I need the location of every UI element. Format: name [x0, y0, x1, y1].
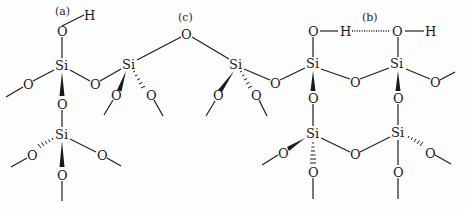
atom-o: O: [57, 97, 68, 112]
atom-o: O: [57, 168, 68, 183]
bonds: [6, 15, 455, 201]
bond-o-terminal: [435, 155, 451, 164]
bond-si1-o-left: [33, 70, 54, 81]
atom-h: H: [425, 24, 436, 39]
structure-canvas: (a) H O Si O O O Si O O O Si O O (c) O S…: [0, 0, 466, 209]
bond-si2-o-right: [70, 139, 96, 152]
atom-o: O: [97, 148, 108, 163]
bond-o-terminal: [107, 158, 121, 166]
wedge-si5-o-below: [311, 71, 316, 91]
atom-si: Si: [390, 56, 403, 71]
atom-o: O: [308, 24, 319, 39]
wedge-si7-o-left: [287, 138, 305, 151]
bond-o-si6: [360, 68, 389, 79]
atom-o: O: [278, 146, 289, 161]
hash-si4-o: [240, 71, 252, 88]
bond-si3-o-c: [137, 37, 181, 60]
atoms: (a) H O Si O O O Si O O O Si O O (c) O S…: [23, 5, 441, 183]
hash-si7-o-below: [310, 143, 316, 163]
atom-o: O: [27, 148, 38, 163]
atom-si: Si: [306, 56, 319, 71]
atom-o: O: [308, 91, 319, 106]
bond-si1-o-bridge: [70, 70, 90, 81]
atom-o: O: [57, 24, 68, 39]
bond-o-terminal: [440, 72, 455, 80]
wedge-si1-o-below: [60, 72, 65, 96]
atom-si: Si: [391, 125, 404, 140]
label-b: (b): [362, 11, 378, 24]
bond-si6-o-right: [406, 69, 430, 79]
atom-o: O: [425, 146, 436, 161]
bond-o-terminal: [262, 155, 278, 165]
atom-o: O: [350, 147, 361, 162]
bond-o-si5: [280, 68, 305, 80]
atom-o-siloxane: O: [181, 27, 192, 42]
atom-si: Si: [55, 58, 68, 73]
atom-o: O: [146, 88, 157, 103]
atom-o: O: [308, 165, 319, 180]
label-a: (a): [55, 5, 70, 18]
atom-si: Si: [306, 126, 319, 141]
bond-si5-o-bridge: [321, 69, 350, 79]
atom-o: O: [350, 75, 361, 90]
bond-o-terminal: [6, 87, 23, 97]
atom-o: O: [90, 77, 101, 92]
hash-si2-o-left: [38, 138, 53, 148]
bond-o-si8: [360, 137, 390, 152]
silica-structure-diagram: (a) H O Si O O O Si O O O Si O O (c) O S…: [0, 0, 466, 209]
atom-o: O: [23, 77, 34, 92]
atom-h: H: [84, 8, 95, 23]
bond-o-c-si4: [192, 37, 229, 59]
bond-o-terminal: [206, 101, 215, 116]
atom-o: O: [213, 88, 224, 103]
atom-o: O: [393, 165, 404, 180]
faint-caption: [150, 196, 320, 206]
atom-o: O: [111, 88, 122, 103]
atom-si: Si: [55, 127, 68, 142]
hash-si3-o: [133, 71, 145, 88]
atom-si: Si: [229, 57, 242, 72]
hash-si8-o-right: [408, 136, 423, 146]
atom-o: O: [392, 24, 403, 39]
bond-si7-o-bridge: [321, 138, 350, 152]
wedge-si2-o-below: [60, 141, 65, 167]
atom-si: Si: [122, 57, 135, 72]
atom-o: O: [393, 91, 404, 106]
label-c: (c): [178, 11, 193, 24]
atom-o: O: [270, 76, 281, 91]
bond-o-si3: [100, 69, 121, 81]
bond-si4-o-bridge: [244, 69, 270, 80]
atom-h: H: [340, 24, 351, 39]
atom-o: O: [430, 75, 441, 90]
wedge-si6-o-below: [396, 71, 401, 91]
atom-o: O: [251, 88, 262, 103]
bond-o-terminal: [11, 158, 27, 167]
